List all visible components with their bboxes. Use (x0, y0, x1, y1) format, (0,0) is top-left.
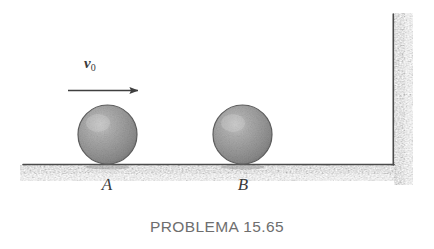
figure-caption: PROBLEMA 15.65 (0, 219, 434, 235)
velocity-symbol: v (84, 55, 91, 71)
velocity-subscript: 0 (91, 62, 96, 73)
figure-canvas (0, 0, 434, 249)
ground-hatching (20, 165, 396, 181)
sphere-label-a: A (92, 176, 122, 193)
velocity-label: v0 (84, 56, 96, 73)
sphere-label-b: B (228, 176, 258, 193)
sphere-b (213, 105, 272, 170)
wall-hatching (394, 13, 413, 185)
physics-figure: v0 A B PROBLEMA 15.65 (0, 0, 434, 249)
sphere-a (78, 105, 137, 170)
